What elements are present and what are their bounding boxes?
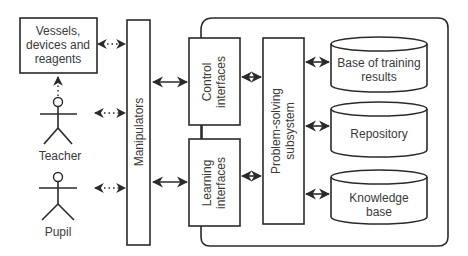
vessels-label-line-2: devices and [26, 38, 90, 52]
pupil-label: Pupil [45, 225, 72, 239]
teacher-label: Teacher [39, 149, 82, 163]
pupil-actor-icon [39, 173, 77, 221]
vessels-label-line-3: reagents [35, 52, 82, 66]
manipulators-label: Manipulators [132, 98, 146, 167]
learning-interfaces-label-line-1: Learning [200, 160, 214, 207]
problem-solving-label-line-1: Problem-solving [269, 88, 283, 174]
problem-solving-label-line-2: subsystem [283, 102, 297, 159]
training-results-database-icon: Base of training results [331, 37, 427, 92]
repository-database-icon: Repository [331, 102, 427, 157]
system-diagram: Vessels, devices and reagents Teacher Pu… [0, 0, 468, 256]
problem-solving-subsystem-box: Problem-solving subsystem [263, 38, 304, 224]
manipulators-box: Manipulators [127, 20, 150, 245]
control-interfaces-label-line-2: interfaces [214, 56, 228, 108]
vessels-label-line-1: Vessels, [36, 24, 81, 38]
teacher-actor-icon [40, 77, 77, 144]
learning-interfaces-label-line-2: interfaces [214, 157, 228, 209]
training-results-label-line-2: results [361, 70, 396, 84]
learning-interfaces-box: Learning interfaces [189, 139, 240, 226]
control-interfaces-box: Control interfaces [189, 38, 240, 125]
vessels-devices-reagents-box: Vessels, devices and reagents [20, 18, 97, 73]
control-interfaces-label-line-1: Control [200, 63, 214, 102]
training-results-label-line-1: Base of training [337, 56, 420, 70]
knowledge-base-label-line-1: Knowledge [349, 191, 409, 205]
knowledge-base-label-line-2: base [366, 205, 392, 219]
repository-label: Repository [350, 127, 407, 141]
knowledge-base-database-icon: Knowledge base [331, 170, 427, 224]
